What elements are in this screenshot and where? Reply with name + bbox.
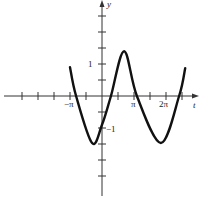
y-tick-label-neg-one: −1 bbox=[106, 124, 116, 134]
x-tick-label-two-pi: 2π bbox=[159, 99, 169, 109]
x-axis-arrow-icon bbox=[192, 94, 199, 99]
y-tick-label-one: 1 bbox=[88, 59, 93, 69]
y-axis-label: y bbox=[106, 0, 111, 9]
y-axis-arrow-icon bbox=[100, 0, 105, 7]
y-axis bbox=[98, 0, 106, 196]
chart-plot: y t −π π 2π 1 −1 bbox=[0, 0, 200, 199]
x-tick-label-pi: π bbox=[131, 99, 136, 109]
x-tick-label-neg-pi: −π bbox=[64, 99, 74, 109]
x-axis-label: t bbox=[193, 100, 196, 110]
